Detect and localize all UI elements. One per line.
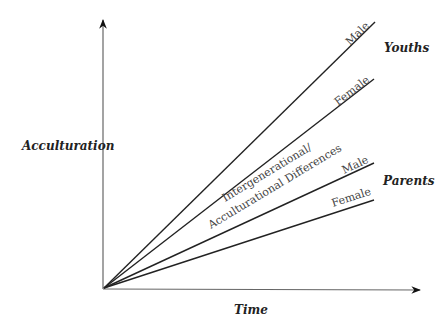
youth-female-label: Female (332, 73, 372, 108)
x-axis-title: Time (234, 303, 268, 317)
x-axis (103, 289, 420, 290)
youth-male-label: Male (343, 19, 372, 48)
youths-group-label: Youths (384, 41, 430, 55)
y-axis-title: Acculturation (21, 139, 114, 153)
parents-group-label: Parents (382, 174, 435, 188)
acculturation-diagram: Male Female Male Female Intergenerationa… (0, 0, 446, 330)
parent-female-label: Female (330, 185, 373, 210)
parent-male-label: Male (340, 153, 371, 176)
